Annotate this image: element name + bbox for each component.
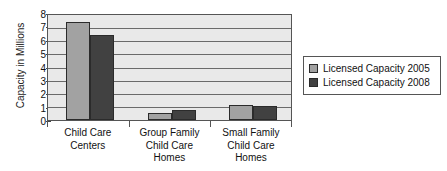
x-label-line: Child Care [129, 140, 211, 153]
x-label-line: Child Care [47, 127, 129, 140]
y-tick-label-3: 3 [26, 75, 46, 86]
bar-group-child-care-centers [48, 15, 130, 120]
y-tick-label-5: 5 [26, 49, 46, 60]
y-tick-label-6: 6 [26, 35, 46, 46]
x-label-line: Child Care [210, 140, 292, 153]
legend-label-2005: Licensed Capacity 2005 [323, 63, 430, 74]
plot-area [47, 14, 292, 121]
x-label-child-care-centers: Child Care Centers [47, 127, 129, 152]
bar-group-group-family-child-care-homes [130, 15, 212, 120]
chart-legend: Licensed Capacity 2005 Licensed Capacity… [303, 56, 441, 95]
x-label-line: Homes [129, 152, 211, 165]
y-axis-ticks: 8 7 6 5 4 3 2 1 0 [20, 14, 46, 121]
bar-chart-figure: Capacity in Millions 8 7 6 5 4 3 2 1 0 [0, 0, 447, 171]
x-label-small-family-child-care-homes: Small Family Child Care Homes [210, 127, 292, 165]
x-label-line: Homes [210, 152, 292, 165]
y-tick-label-1: 1 [26, 102, 46, 113]
legend-swatch-icon-2008 [309, 78, 318, 87]
x-label-line: Small Family [210, 127, 292, 140]
y-tick-label-7: 7 [26, 22, 46, 33]
bar-2005-child-care-centers [66, 22, 90, 120]
legend-item-2008: Licensed Capacity 2008 [309, 76, 435, 89]
x-label-line: Group Family [129, 127, 211, 140]
x-axis-labels: Child Care Centers Group Family Child Ca… [47, 127, 292, 171]
bar-2005-small-family-child-care-homes [229, 105, 253, 120]
bar-2008-child-care-centers [90, 35, 114, 120]
bar-2008-group-family-child-care-homes [172, 110, 196, 120]
bar-2005-group-family-child-care-homes [148, 113, 172, 120]
y-tick-label-4: 4 [26, 62, 46, 73]
x-label-line: Centers [47, 140, 129, 153]
x-label-group-family-child-care-homes: Group Family Child Care Homes [129, 127, 211, 165]
bar-group-small-family-child-care-homes [211, 15, 293, 120]
y-tick-label-8: 8 [26, 9, 46, 20]
legend-swatch-icon-2005 [309, 64, 318, 73]
y-tick-label-0: 0 [26, 116, 46, 127]
legend-label-2008: Licensed Capacity 2008 [323, 77, 430, 88]
y-tick-label-2: 2 [26, 89, 46, 100]
legend-item-2005: Licensed Capacity 2005 [309, 62, 435, 75]
bar-2008-small-family-child-care-homes [253, 106, 277, 120]
